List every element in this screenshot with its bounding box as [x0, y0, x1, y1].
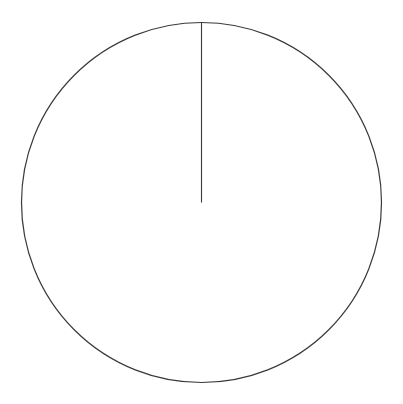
pie-chart — [0, 0, 403, 404]
figure-canvas — [0, 0, 403, 404]
